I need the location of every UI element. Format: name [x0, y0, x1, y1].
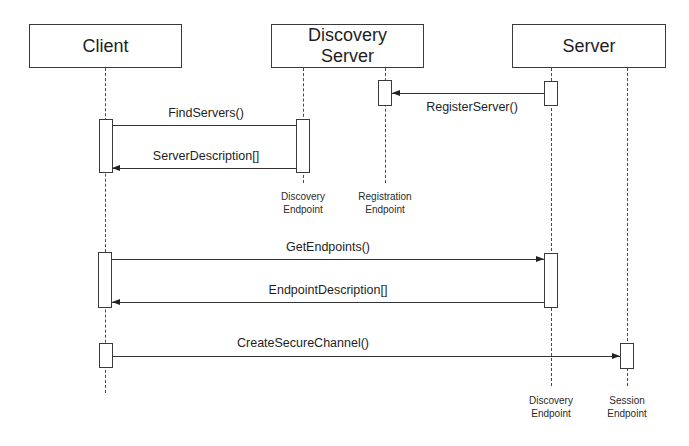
- register-server-arrow: [392, 93, 544, 94]
- participant-server: Server: [512, 24, 666, 68]
- endpoint-description-label: EndpointDescription[]: [269, 283, 388, 297]
- find-servers-arrow: [112, 125, 296, 126]
- ds-discovery-activation: [296, 119, 310, 173]
- arrowhead-right-icon: [612, 353, 620, 359]
- server-description-arrow: [112, 168, 296, 169]
- client-activation-getendpoints: [98, 252, 112, 308]
- participant-client-label: Client: [82, 36, 128, 57]
- server-register-activation: [544, 81, 558, 106]
- ds-registration-endpoint-label: Registration Endpoint: [358, 190, 411, 216]
- arrowhead-left-icon: [392, 90, 400, 96]
- create-secure-channel-label: CreateSecureChannel(): [237, 336, 369, 350]
- server-session-endpoint-lifeline: [627, 68, 628, 386]
- client-activation-findservers: [99, 119, 113, 173]
- server-discovery-activation: [544, 253, 558, 308]
- ds-registration-activation: [378, 80, 392, 106]
- arrowhead-right-icon: [536, 256, 544, 262]
- find-servers-label: FindServers(): [168, 106, 244, 120]
- endpoint-description-arrow: [112, 302, 544, 303]
- participant-client: Client: [29, 24, 182, 68]
- sequence-diagram: Client Discovery Server Server RegisterS…: [0, 0, 689, 446]
- client-activation-securechannel: [99, 343, 113, 368]
- server-discovery-endpoint-label: Discovery Endpoint: [529, 394, 573, 420]
- create-secure-channel-arrow: [112, 356, 620, 357]
- arrowhead-left-icon: [112, 299, 120, 305]
- arrowhead-left-icon: [112, 165, 120, 171]
- get-endpoints-arrow: [112, 259, 544, 260]
- server-description-label: ServerDescription[]: [153, 149, 259, 163]
- participant-discovery-server-label: Discovery Server: [308, 25, 387, 67]
- get-endpoints-label: GetEndpoints(): [286, 240, 370, 254]
- register-server-label: RegisterServer(): [426, 100, 518, 114]
- participant-discovery-server: Discovery Server: [271, 24, 424, 68]
- ds-discovery-endpoint-label: Discovery Endpoint: [281, 190, 325, 216]
- server-session-activation: [620, 343, 634, 369]
- participant-server-label: Server: [562, 36, 615, 57]
- server-session-endpoint-label: Session Endpoint: [607, 394, 646, 420]
- server-discovery-endpoint-lifeline: [551, 68, 552, 386]
